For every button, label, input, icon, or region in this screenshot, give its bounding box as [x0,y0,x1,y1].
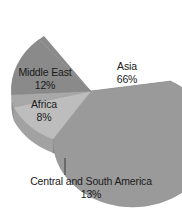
slice-label-asia-value: 66% [104,73,150,86]
slice-label-central-south-america-value: 13% [6,188,176,201]
pie-chart: Asia 66% Middle East 12% Africa 8% Centr… [0,0,182,216]
slice-label-central-south-america-name: Central and South America [6,175,176,188]
slice-label-middle-east: Middle East 12% [9,66,81,91]
slice-label-middle-east-value: 12% [9,79,81,92]
slice-label-africa: Africa 8% [17,98,71,123]
slice-label-africa-value: 8% [17,111,71,124]
slice-label-asia: Asia 66% [104,60,150,85]
slice-label-asia-name: Asia [104,60,150,73]
slice-label-central-south-america: Central and South America 13% [6,175,176,201]
slice-label-middle-east-name: Middle East [9,66,81,79]
slice-label-africa-name: Africa [17,98,71,111]
